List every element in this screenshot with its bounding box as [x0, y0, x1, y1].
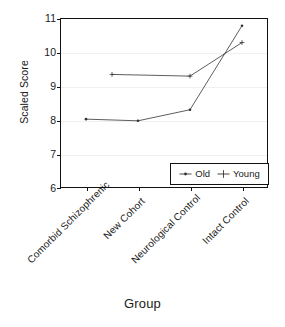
legend-entry-young[interactable]: Young	[217, 169, 260, 179]
data-point-old-2	[189, 108, 192, 111]
legend-label-old: Old	[195, 169, 210, 179]
dot-marker-icon	[179, 169, 192, 179]
x-tick-label-neurological-control: Neurological Control	[130, 196, 199, 265]
data-series-layer	[61, 19, 267, 187]
data-point-old-1	[137, 120, 140, 123]
series-line-old	[86, 26, 242, 121]
legend-label-young: Young	[233, 169, 260, 179]
y-tick-label: 6	[36, 183, 56, 194]
x-tickmark-1	[87, 187, 88, 191]
data-point-young-1	[188, 74, 193, 79]
chart-figure: Scaled Score 11 10 9 8 7 6	[0, 0, 285, 327]
y-tick-label: 11	[36, 13, 56, 24]
x-tickmark-4	[243, 187, 244, 191]
x-tick-label-new-cohort: New Cohort	[78, 196, 147, 265]
y-tick-label: 8	[36, 115, 56, 126]
y-axis-title: Scaled Score	[18, 37, 30, 147]
x-tick-label-intact-control: Intact Control	[182, 196, 251, 265]
legend-entry-old[interactable]: Old	[179, 169, 210, 179]
data-point-old-0	[85, 118, 88, 121]
data-point-young-0	[110, 72, 115, 77]
series-line-young	[112, 43, 242, 77]
data-point-old-3	[241, 24, 244, 27]
legend[interactable]: Old Young	[170, 163, 269, 185]
y-tick-label: 10	[36, 47, 56, 58]
y-tickmark-6	[57, 188, 61, 189]
x-tickmark-3	[191, 187, 192, 191]
y-tick-label: 9	[36, 81, 56, 92]
x-tick-label-comorbid-schizophrenic: Comorbid Schizophrenic	[26, 196, 95, 265]
plus-marker-icon	[217, 169, 230, 179]
y-tick-label: 7	[36, 149, 56, 160]
x-axis-title: Group	[0, 296, 285, 311]
x-tickmark-2	[139, 187, 140, 191]
data-point-young-2	[240, 40, 245, 45]
